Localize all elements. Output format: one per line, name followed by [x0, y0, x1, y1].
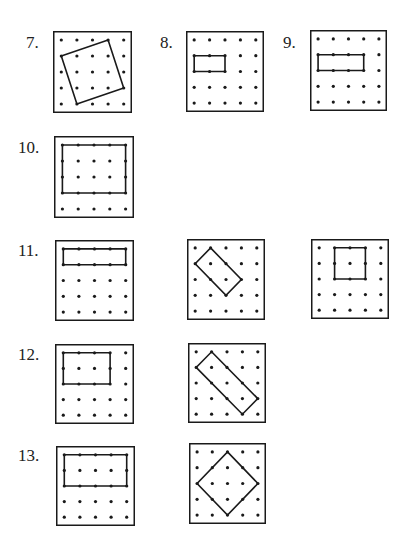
peg-dot: [195, 513, 198, 516]
peg-dot: [78, 469, 81, 472]
geoboard-11a: [55, 240, 134, 321]
peg-dot: [91, 70, 94, 73]
peg-dot: [75, 70, 78, 73]
peg-dot: [239, 101, 242, 104]
peg-dot: [93, 310, 96, 313]
peg-dot: [208, 86, 211, 89]
peg-dot: [226, 498, 229, 501]
peg-dot: [93, 279, 96, 282]
peg-dot: [124, 279, 127, 282]
geoboard-figure: [310, 30, 387, 111]
peg-dot: [61, 207, 64, 210]
peg-dot: [224, 309, 227, 312]
peg-dot: [194, 278, 197, 281]
peg-dot: [94, 500, 97, 503]
peg-dot: [254, 101, 257, 104]
peg-dot: [239, 54, 242, 57]
peg-dot: [256, 350, 259, 353]
peg-dot: [109, 279, 112, 282]
peg-dot: [60, 102, 63, 105]
peg-dot: [93, 398, 96, 401]
peg-dot: [211, 450, 214, 453]
peg-dot: [63, 500, 66, 503]
peg-dot: [256, 450, 259, 453]
peg-dot: [255, 309, 258, 312]
peg-dot: [255, 246, 258, 249]
peg-dot: [194, 294, 197, 297]
peg-dot: [94, 469, 97, 472]
peg-dot: [256, 366, 259, 369]
geoboard-12b: [188, 343, 266, 423]
peg-dot: [60, 38, 63, 41]
peg-dot: [347, 100, 350, 103]
rubber-band-shape: [318, 55, 364, 71]
peg-dot: [78, 500, 81, 503]
peg-dot: [255, 262, 258, 265]
peg-dot: [107, 54, 110, 57]
rubber-band-shape: [195, 248, 241, 295]
problem-number: 11.: [18, 242, 39, 259]
peg-dot: [60, 86, 63, 89]
peg-dot: [379, 277, 382, 280]
peg-dot: [348, 309, 351, 312]
peg-dot: [318, 293, 321, 296]
peg-dot: [225, 381, 228, 384]
peg-dot: [224, 278, 227, 281]
problem-number: 8.: [160, 34, 173, 51]
peg-dot: [240, 309, 243, 312]
peg-dot: [195, 498, 198, 501]
peg-dot: [108, 159, 111, 162]
peg-dot: [195, 466, 198, 469]
peg-dot: [255, 294, 258, 297]
peg-dot: [77, 279, 80, 282]
peg-dot: [332, 100, 335, 103]
peg-dot: [223, 38, 226, 41]
geoboard-11b: [187, 239, 265, 320]
peg-dot: [62, 310, 65, 313]
geoboard-figure: [55, 240, 134, 321]
peg-dot: [241, 450, 244, 453]
peg-dot: [364, 293, 367, 296]
peg-dot: [362, 37, 365, 40]
rubber-band-shape: [194, 56, 225, 72]
peg-dot: [379, 246, 382, 249]
peg-dot: [195, 381, 198, 384]
peg-dot: [240, 246, 243, 249]
geoboard-7: [53, 31, 132, 113]
peg-dot: [195, 413, 198, 416]
peg-dot: [124, 398, 127, 401]
geoboard-13b: [189, 443, 266, 524]
rubber-band-shape: [63, 249, 125, 265]
peg-dot: [62, 279, 65, 282]
peg-dot: [240, 262, 243, 265]
peg-dot: [77, 414, 80, 417]
peg-dot: [107, 86, 110, 89]
peg-dot: [240, 294, 243, 297]
peg-dot: [225, 413, 228, 416]
peg-dot: [256, 466, 259, 469]
peg-dot: [194, 246, 197, 249]
peg-dot: [332, 85, 335, 88]
geoboard-13a: [56, 446, 135, 526]
peg-dot: [333, 293, 336, 296]
peg-dot: [75, 86, 78, 89]
geoboard-figure: [311, 239, 389, 319]
peg-dot: [347, 37, 350, 40]
peg-dot: [241, 513, 244, 516]
problem-number: 7.: [26, 34, 39, 51]
peg-dot: [241, 366, 244, 369]
peg-dot: [211, 513, 214, 516]
peg-dot: [210, 413, 213, 416]
peg-dot: [122, 102, 125, 105]
geoboard-figure: [56, 446, 135, 526]
peg-dot: [124, 295, 127, 298]
peg-dot: [77, 367, 80, 370]
peg-dot: [62, 295, 65, 298]
peg-dot: [210, 366, 213, 369]
geoboard-9: [310, 30, 387, 111]
peg-dot: [63, 516, 66, 519]
peg-dot: [109, 310, 112, 313]
peg-dot: [377, 100, 380, 103]
peg-dot: [332, 37, 335, 40]
geoboard-10: [54, 136, 134, 218]
